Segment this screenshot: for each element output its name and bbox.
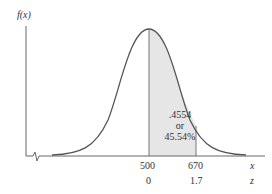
normal-curve-diagram xyxy=(0,0,272,194)
z-axis-name: z xyxy=(250,176,254,186)
x-axis-name: x xyxy=(250,161,254,171)
probability-value: .4554 xyxy=(160,109,200,120)
or-text: or xyxy=(160,120,200,131)
z-tick-0: 0 xyxy=(146,176,151,186)
percent-value: 45.54% xyxy=(160,131,200,142)
z-tick-1-7: 1.7 xyxy=(190,176,203,186)
x-tick-670: 670 xyxy=(188,161,203,171)
x-tick-500: 500 xyxy=(140,161,155,171)
shaded-area-label: .4554 or 45.54% xyxy=(160,109,200,142)
y-axis-label: f(x) xyxy=(17,10,31,20)
